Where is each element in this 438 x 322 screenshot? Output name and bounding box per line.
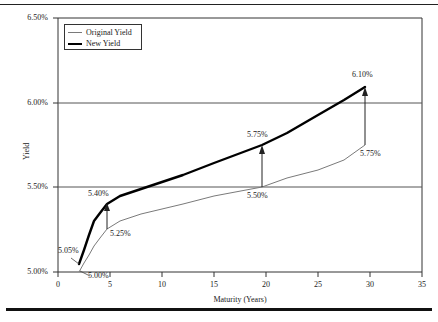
legend-label-new-yield: New Yield: [86, 40, 120, 48]
x-tick-label-30: 30: [358, 281, 382, 289]
y-tick-label-650: 6.50%: [14, 14, 48, 22]
legend-swatch-new-yield: [68, 43, 82, 45]
x-tick-label-25: 25: [306, 281, 330, 289]
y-gridlines: [58, 103, 422, 187]
y-axis-ticks: [53, 18, 58, 272]
series-original-yield: [79, 145, 365, 272]
y-tick-label-500: 5.00%: [14, 268, 48, 276]
bottom-divider-rule: [6, 308, 432, 311]
chart-legend: Original Yield New Yield: [64, 24, 142, 50]
x-axis-title: Maturity (Years): [140, 295, 340, 304]
annotation-original-yield-20yr: 5.50%: [247, 192, 268, 200]
annotation-new-yield-20yr: 5.75%: [247, 131, 268, 139]
legend-item-new-yield: New Yield: [68, 38, 120, 49]
y-axis-title: Yield: [22, 143, 31, 160]
y-tick-label-600: 6.00%: [14, 99, 48, 107]
callout-arrow-20yr: [259, 145, 265, 187]
legend-label-original-yield: Original Yield: [86, 29, 132, 37]
x-tick-label-15: 15: [202, 281, 226, 289]
x-tick-label-20: 20: [254, 281, 278, 289]
callout-arrow-30yr: [362, 87, 368, 145]
annotation-original-yield-5yr: 5.25%: [110, 230, 131, 238]
y-tick-label-550: 5.50%: [14, 183, 48, 191]
annotation-new-yield-30yr: 6.10%: [352, 71, 373, 79]
annotation-original-yield-start: 5.00%: [88, 272, 109, 280]
x-tick-label-35: 35: [410, 281, 434, 289]
chart-page: 6.50% 6.00% 5.50% 5.00% 0 5 10 15 20 25 …: [0, 0, 438, 322]
x-tick-label-0: 0: [46, 281, 70, 289]
legend-swatch-original-yield: [68, 32, 82, 33]
annotation-new-yield-5yr: 5.40%: [88, 190, 109, 198]
annotation-new-yield-start: 5.05%: [58, 247, 79, 255]
x-axis-ticks: [58, 272, 422, 277]
legend-item-original-yield: Original Yield: [68, 27, 132, 38]
yield-curve-chart: 6.50% 6.00% 5.50% 5.00% 0 5 10 15 20 25 …: [0, 0, 438, 322]
annotation-original-yield-30yr: 5.75%: [360, 150, 381, 158]
x-tick-label-5: 5: [98, 281, 122, 289]
x-tick-label-10: 10: [150, 281, 174, 289]
